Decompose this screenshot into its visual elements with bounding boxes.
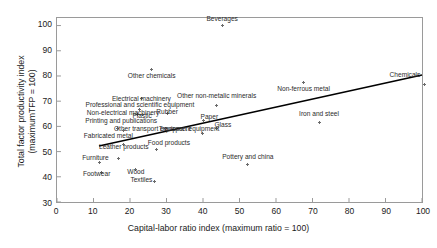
data-point-label: Furniture [82,154,108,161]
y-tick-label: 90 [16,46,52,55]
y-tick-label: 80 [16,71,52,80]
x-axis-ticks: 0102030405060708090100 [56,207,423,219]
y-tick-label: 100 [16,20,52,29]
x-tick-label: 0 [41,207,71,216]
data-point-label: Other non-metalic minerals [177,92,256,99]
data-point-label: Rubber [156,108,178,115]
x-tick-label: 70 [298,207,328,216]
data-point-label: Other chemicals [128,72,176,79]
x-tick-label: 30 [151,207,181,216]
x-tick-label: 90 [371,207,401,216]
x-axis-title: Capital-labor ratio index (maximum ratio… [0,223,437,233]
data-point-label: Textiles [130,176,152,183]
data-point-label: Iron and steel [299,110,339,117]
data-point-label: Fabricated metal [84,132,133,139]
data-point-label: Food products [148,139,190,146]
data-point-label: Transport equipment [159,125,220,132]
plot-area: BeveragesOther chemicalsChemicalsNon-fer… [56,17,423,203]
x-tick-label: 10 [78,207,108,216]
data-point-marker [423,83,426,86]
data-point-label: Pottery and china [222,153,273,160]
x-tick-label: 80 [335,207,365,216]
data-point-label: Printing and publications [85,117,157,124]
y-tick-label: 70 [16,97,52,106]
x-tick-label: 40 [188,207,218,216]
x-tick-label: 20 [114,207,144,216]
y-tick-label: 30 [16,199,52,208]
y-tick-label: 40 [16,173,52,182]
data-point-label: Footwear [83,170,111,177]
data-point-label: Non-ferrous metal [277,85,330,92]
y-tick-label: 60 [16,122,52,131]
data-point-label: Leather products [99,143,149,150]
data-point-label: Beverages [206,15,238,22]
x-tick-label: 60 [261,207,291,216]
x-tick-label: 100 [408,207,437,216]
y-axis-ticks: 30405060708090100 [10,17,52,203]
chart-figure: Total factor productivity index (maximum… [0,0,437,248]
y-tick-label: 50 [16,148,52,157]
x-tick-label: 50 [225,207,255,216]
data-point-label: Chemicals [390,71,421,78]
data-point-label: Wood [127,168,144,175]
